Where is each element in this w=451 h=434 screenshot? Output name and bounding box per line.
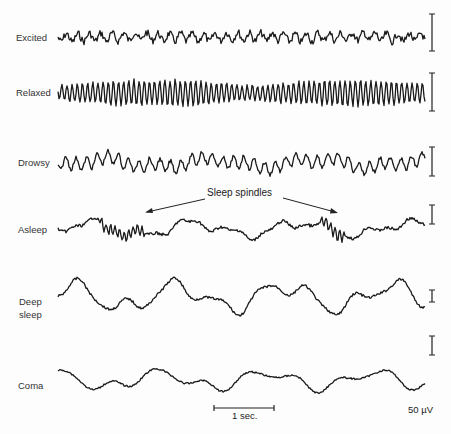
eeg-traces bbox=[0, 0, 451, 434]
scale-bar-drowsy bbox=[429, 147, 435, 176]
scale-bar-relaxed bbox=[429, 73, 435, 111]
trace-group bbox=[58, 30, 425, 394]
arrow-head-right-icon bbox=[330, 208, 338, 214]
scale-bar-asleep bbox=[429, 205, 435, 224]
eeg-trace-coma bbox=[58, 369, 425, 394]
eeg-trace-excited bbox=[58, 30, 425, 46]
scale-bar-deep-sleep bbox=[429, 290, 435, 302]
eeg-trace-drowsy bbox=[58, 149, 425, 176]
time-scale-bar bbox=[214, 405, 274, 411]
spindle-arrows bbox=[145, 198, 338, 214]
scale-bar-coma bbox=[429, 336, 435, 355]
arrow-head-left-icon bbox=[145, 208, 153, 213]
eeg-trace-relaxed bbox=[58, 79, 425, 107]
eeg-trace-asleep bbox=[58, 217, 425, 242]
scale-bar-excited bbox=[429, 14, 435, 51]
amplitude-scale-bars bbox=[429, 14, 435, 355]
eeg-trace-deep-sleep bbox=[58, 277, 425, 316]
